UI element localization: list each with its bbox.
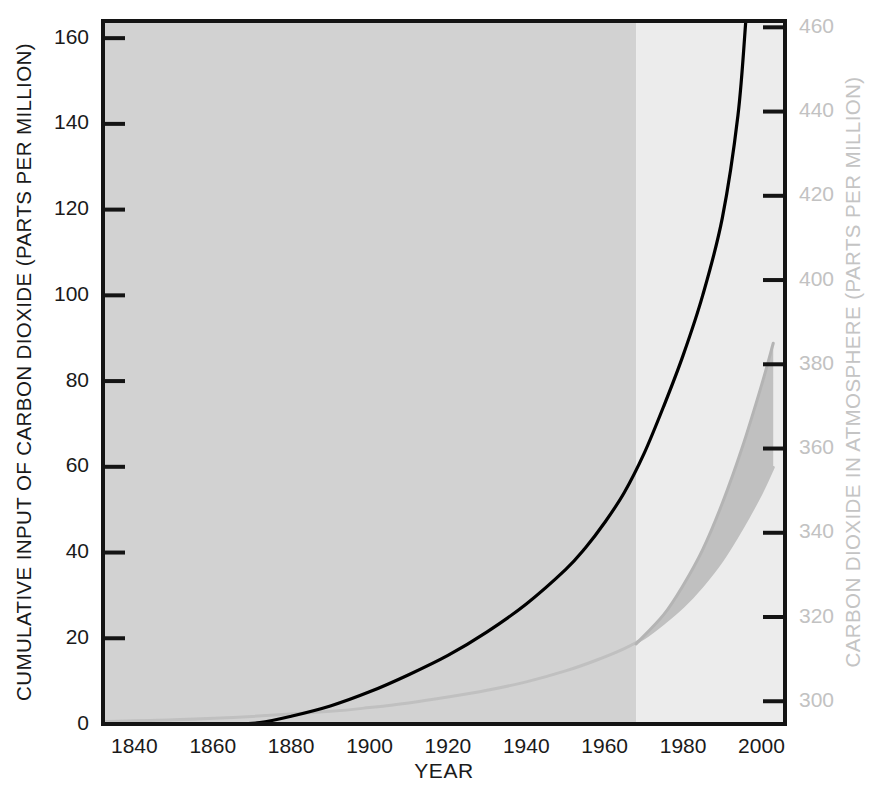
left-tick-label: 60 <box>66 453 89 476</box>
left-tick-label: 80 <box>66 368 89 391</box>
x-tick-label: 1980 <box>660 734 707 757</box>
x-tick-label: 1840 <box>111 734 158 757</box>
right-tick-label: 420 <box>799 182 834 205</box>
right-axis-title: CARBON DIOXIDE IN ATMOSPHERE (PARTS PER … <box>841 76 864 667</box>
right-tick-label: 380 <box>799 351 834 374</box>
right-tick-label: 300 <box>799 688 834 711</box>
left-tick-label: 0 <box>77 711 89 734</box>
chart-figure: 020406080100120140160 300320340360380400… <box>0 0 876 799</box>
right-tick-label: 460 <box>799 14 834 37</box>
right-tick-label: 320 <box>799 604 834 627</box>
x-tick-label: 1920 <box>425 734 472 757</box>
right-tick-label: 440 <box>799 98 834 121</box>
left-tick-label: 120 <box>54 196 89 219</box>
x-tick-label: 1860 <box>189 734 236 757</box>
left-tick-label: 160 <box>54 25 89 48</box>
right-tick-label: 340 <box>799 519 834 542</box>
right-tick-label: 360 <box>799 435 834 458</box>
chart-root: 020406080100120140160 300320340360380400… <box>0 0 876 799</box>
left-tick-label: 40 <box>66 539 89 562</box>
plot-background-regions <box>103 21 785 724</box>
x-tick-label: 2000 <box>738 734 785 757</box>
projection-region <box>636 21 785 724</box>
x-tick-label: 1960 <box>581 734 628 757</box>
x-tick-label: 1940 <box>503 734 550 757</box>
left-tick-label: 20 <box>66 625 89 648</box>
left-axis-title: CUMULATIVE INPUT OF CARBON DIOXIDE (PART… <box>12 43 35 701</box>
x-tick-label: 1880 <box>268 734 315 757</box>
x-tick-label: 1900 <box>346 734 393 757</box>
left-tick-label: 140 <box>54 110 89 133</box>
x-axis-ticks: 184018601880190019201940196019802000 <box>111 734 785 757</box>
right-tick-label: 400 <box>799 267 834 290</box>
x-axis-title: YEAR <box>414 759 474 782</box>
left-tick-label: 100 <box>54 282 89 305</box>
historical-record-region <box>103 21 636 724</box>
